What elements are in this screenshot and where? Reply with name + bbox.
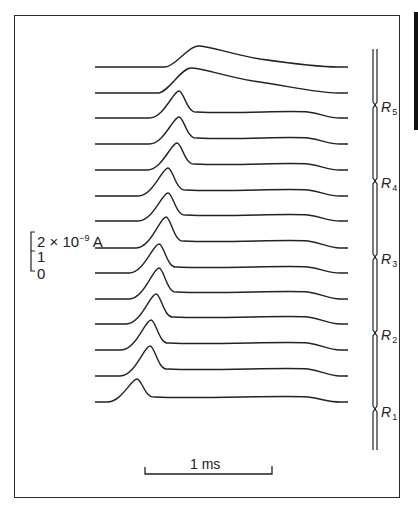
region-label-r3: R3 bbox=[381, 251, 397, 269]
trace-12 bbox=[95, 320, 348, 350]
trace-6 bbox=[95, 168, 348, 196]
figure: 2 × 10−9 A 1 0 1 ms R5 R4 R3 R2 R1 bbox=[0, 0, 418, 505]
region-label-r5: R5 bbox=[381, 99, 397, 117]
time-scale-label: 1 ms bbox=[190, 456, 220, 472]
trace-7 bbox=[95, 193, 348, 221]
current-scale-top: 2 × 10−9 A bbox=[37, 231, 103, 249]
fibre-left-edge bbox=[373, 49, 375, 450]
trace-14 bbox=[95, 379, 348, 402]
trace-2 bbox=[95, 68, 348, 93]
trace-3 bbox=[95, 91, 348, 118]
traces-plot bbox=[0, 0, 418, 505]
region-label-r1: R1 bbox=[381, 404, 397, 422]
current-scale-bracket bbox=[31, 232, 35, 271]
trace-13 bbox=[95, 346, 348, 376]
region-label-r2: R2 bbox=[381, 327, 397, 345]
trace-5 bbox=[95, 143, 348, 170]
trace-4 bbox=[95, 117, 348, 144]
fibre-right-edge bbox=[375, 49, 377, 450]
current-scale-mid: 1 bbox=[37, 249, 45, 264]
region-label-r4: R4 bbox=[381, 175, 397, 193]
current-scale-zero: 0 bbox=[37, 266, 45, 281]
trace-1 bbox=[95, 46, 348, 67]
